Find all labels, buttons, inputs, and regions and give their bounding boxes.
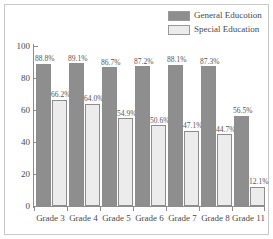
bar-label-general-grade-7: 88.1% (167, 56, 186, 64)
bar-special-grade-4[interactable] (85, 104, 100, 206)
bar-label-special-grade-11: 12.1% (249, 178, 268, 186)
y-tick-label-100: 100 (6, 42, 30, 51)
bar-special-grade-5[interactable] (118, 118, 133, 206)
bar-label-general-grade-4: 89.1% (68, 55, 87, 63)
bar-chart: General Educotion Special Education 100 … (0, 0, 273, 239)
chart-legend: General Educotion Special Education (168, 9, 268, 37)
x-tick-mark-3 (133, 207, 134, 211)
bar-group-grade-5: 86.7% 54.9% (102, 46, 134, 206)
bar-label-special-grade-8: 44.7% (216, 126, 235, 134)
bar-special-grade-11[interactable] (250, 187, 265, 206)
x-tick-mark-4 (166, 207, 167, 211)
bar-label-general-grade-3: 88.8% (35, 55, 54, 63)
x-tick-mark-6 (232, 207, 233, 211)
bar-special-grade-3[interactable] (52, 100, 67, 206)
bar-special-grade-7[interactable] (184, 131, 199, 206)
bar-general-grade-11[interactable] (234, 116, 249, 206)
bar-group-grade-11: 56.5% 12.1% (234, 46, 266, 206)
x-tick-mark-2 (100, 207, 101, 211)
bar-general-grade-7[interactable] (168, 65, 183, 206)
y-tick-label-40: 40 (6, 138, 30, 147)
legend-label-special-education: Special Education (194, 24, 259, 35)
x-label-grade-5: Grade 5 (100, 213, 133, 224)
bar-general-grade-6[interactable] (135, 66, 150, 206)
x-tick-mark-7 (264, 207, 265, 211)
y-tick-label-20: 20 (6, 170, 30, 179)
x-tick-mark-1 (67, 207, 68, 211)
bar-general-grade-5[interactable] (102, 67, 117, 206)
bar-label-special-grade-5: 54.9% (117, 110, 136, 118)
x-tick-mark-0 (34, 207, 35, 211)
y-tick-label-60: 60 (6, 106, 30, 115)
legend-label-general-education: General Educotion (194, 10, 262, 21)
bar-general-grade-3[interactable] (36, 64, 51, 206)
plot-area: 88.8% 66.2% 89.1% 64.0% 86.7% 54.9% 87.2… (34, 46, 264, 206)
legend-item-general-education: General Educotion (168, 9, 268, 22)
legend-item-special-education: Special Education (168, 23, 268, 36)
bar-label-special-grade-4: 64.0% (84, 95, 103, 103)
x-label-grade-6: Grade 6 (133, 213, 166, 224)
bar-general-grade-4[interactable] (69, 63, 84, 206)
y-tick-label-80: 80 (6, 74, 30, 83)
x-label-grade-7: Grade 7 (166, 213, 199, 224)
bar-label-general-grade-5: 86.7% (101, 59, 120, 67)
bar-label-special-grade-6: 50.6% (150, 117, 169, 125)
x-label-grade-8: Grade 8 (199, 213, 232, 224)
x-label-grade-11: Grade 11 (231, 213, 266, 224)
bar-special-grade-8[interactable] (217, 134, 232, 206)
legend-swatch-general-education (168, 11, 190, 21)
bar-label-general-grade-11: 56.5% (233, 107, 252, 115)
x-label-grade-4: Grade 4 (67, 213, 100, 224)
bar-group-grade-7: 88.1% 47.1% (168, 46, 200, 206)
bar-general-grade-8[interactable] (201, 66, 216, 206)
bar-group-grade-4: 89.1% 64.0% (69, 46, 101, 206)
bar-group-grade-6: 87.2% 50.6% (135, 46, 167, 206)
x-tick-mark-5 (199, 207, 200, 211)
bar-label-special-grade-7: 47.1% (183, 122, 202, 130)
bar-group-grade-8: 87.3% 44.7% (201, 46, 233, 206)
x-label-grade-3: Grade 3 (34, 213, 67, 224)
bar-special-grade-6[interactable] (151, 125, 166, 206)
bar-label-special-grade-3: 66.2% (51, 91, 70, 99)
bar-label-general-grade-6: 87.2% (134, 58, 153, 66)
y-tick-label-0: 0 (6, 202, 30, 211)
bar-label-general-grade-8: 87.3% (200, 58, 219, 66)
bar-group-grade-3: 88.8% 66.2% (36, 46, 68, 206)
legend-swatch-special-education (168, 25, 190, 35)
